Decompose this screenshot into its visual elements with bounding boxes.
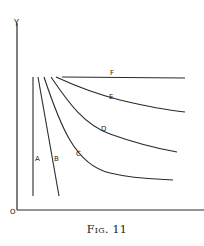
curve-e [56,77,185,112]
curve-f-label: F [110,69,114,77]
figure-caption: Fig. 11 [0,223,204,236]
origin-label: O [10,208,16,216]
figure-diagram: Y O A B C D E F [0,0,204,246]
curve-f [62,77,185,78]
curve-c-label: C [76,150,81,158]
curve-b-label: B [54,155,59,163]
y-axis-label: Y [13,19,19,28]
curve-d-label: D [101,125,106,133]
curve-a-label: A [35,155,40,163]
curve-b [38,77,59,196]
curve-e-label: E [109,93,113,101]
